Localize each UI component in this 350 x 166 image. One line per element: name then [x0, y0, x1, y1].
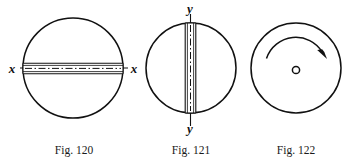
fig-120-axis-label-left: x: [8, 61, 16, 76]
fig-120-axis-label-right: x: [130, 61, 138, 76]
fig-121-axis-label-bottom: y: [185, 121, 193, 136]
figure-121-group: y y Fig. 121: [146, 1, 236, 157]
fig-122-center-hub-icon: [292, 66, 299, 73]
fig-122-disc-outline: [251, 23, 341, 113]
fig-122-caption: Fig. 122: [277, 144, 316, 157]
fig-122-rotation-arrowhead-icon: [317, 49, 327, 59]
fig-120-caption: Fig. 120: [55, 144, 94, 157]
figure-plate: x x Fig. 120 y y F: [0, 0, 350, 166]
figures-svg: x x Fig. 120 y y F: [0, 0, 350, 166]
fig-121-axis-label-top: y: [185, 1, 193, 16]
fig-121-caption: Fig. 121: [172, 144, 211, 157]
fig-122-rotation-arrow-arc: [267, 37, 323, 58]
figure-120-group: x x Fig. 120: [8, 18, 138, 157]
figure-122-group: Fig. 122: [251, 23, 341, 157]
